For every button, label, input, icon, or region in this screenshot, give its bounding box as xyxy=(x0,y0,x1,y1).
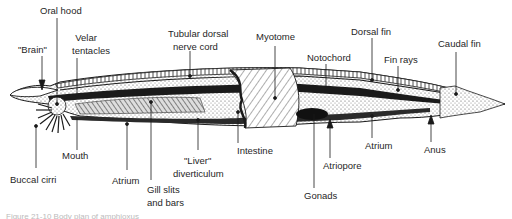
label-fin-rays: Fin rays xyxy=(384,54,418,65)
label-dorsal-fin: Dorsal fin xyxy=(351,26,391,37)
label-atrium-front: Atrium xyxy=(112,175,139,186)
lancelet-diagram: Oral hood "Brain" Velar tentacles Tubula… xyxy=(0,0,512,219)
label-liver-line1: "Liver" xyxy=(184,155,211,166)
label-gill-line1: Gill slits xyxy=(147,184,180,195)
label-gill-line2: and bars xyxy=(147,197,184,208)
label-brain: "Brain" xyxy=(18,44,47,55)
label-anus: Anus xyxy=(424,144,446,155)
caudal-fin xyxy=(440,86,505,118)
label-buccal-cirri: Buccal cirri xyxy=(10,174,56,185)
label-nerve-cord-line1: Tubular dorsal xyxy=(168,28,228,39)
label-mouth: Mouth xyxy=(62,150,88,161)
figure-caption: Figure 21-10 Body plan of amphioxus xyxy=(6,212,139,219)
label-notochord: Notochord xyxy=(307,52,351,63)
label-myotome: Myotome xyxy=(256,31,295,42)
label-liver-line2: diverticulum xyxy=(173,168,224,179)
label-oral-hood: Oral hood xyxy=(40,5,82,16)
label-velar-tentacles-line1: Velar xyxy=(72,32,100,43)
label-atrium-rear: Atrium xyxy=(365,140,392,151)
label-caudal-fin: Caudal fin xyxy=(438,38,481,49)
label-gonads: Gonads xyxy=(304,190,337,201)
label-velar-tentacles-line2: tentacles xyxy=(72,45,110,56)
label-nerve-cord-line2: nerve cord xyxy=(173,41,218,52)
label-atriopore: Atriopore xyxy=(323,160,362,171)
gonads xyxy=(296,108,328,120)
label-intestine: Intestine xyxy=(237,145,273,156)
